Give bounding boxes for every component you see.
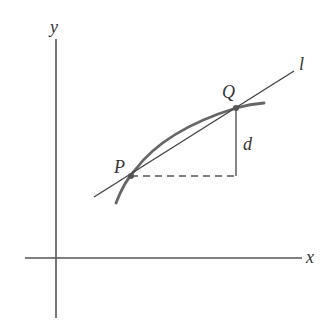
point-q <box>233 105 239 111</box>
y-axis-label: y <box>48 17 58 37</box>
distance-d-label: d <box>243 134 253 154</box>
point-p <box>128 173 134 179</box>
x-axis-label: x <box>305 247 314 267</box>
point-p-label: P <box>113 157 125 177</box>
point-q-label: Q <box>222 82 235 102</box>
secant-line-l <box>94 71 294 197</box>
diagram-canvas: y x P Q l d <box>0 0 332 330</box>
curve <box>116 103 264 203</box>
line-l-label: l <box>299 54 304 74</box>
